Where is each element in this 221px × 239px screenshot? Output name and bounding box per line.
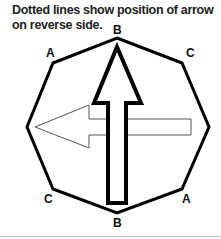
label-bottom-left-c: C (44, 192, 53, 206)
label-bottom-right-a: A (182, 192, 191, 206)
front-arrow-icon (94, 47, 141, 203)
label-bottom-b: B (113, 216, 122, 230)
label-top-left-a: A (46, 46, 55, 60)
label-top-right-c: C (186, 46, 195, 60)
divider (0, 236, 221, 237)
label-top-b: B (113, 23, 122, 37)
